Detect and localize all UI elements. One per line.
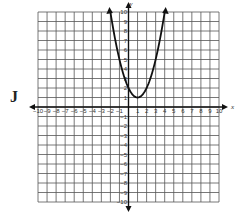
x-tick-label: 1 (136, 108, 140, 114)
arrow-right-icon (222, 104, 228, 110)
x-tick-label: −6 (71, 108, 79, 114)
x-axis-label: x (230, 103, 235, 111)
x-tick-label: −4 (89, 108, 97, 114)
curve-arrow-right-icon (162, 7, 169, 14)
x-tick-label: −9 (44, 108, 52, 114)
x-tick-label: −5 (80, 108, 88, 114)
y-tick-label: 10 (120, 9, 127, 15)
y-tick-label: −4 (120, 142, 128, 148)
x-tick-label: 9 (208, 108, 212, 114)
y-tick-label: −8 (120, 180, 128, 186)
x-tick-label: 4 (163, 108, 167, 114)
x-tick-label: 8 (199, 108, 203, 114)
x-tick-label: −3 (98, 108, 106, 114)
y-axis-label: y (129, 0, 134, 8)
x-tick-label: 7 (190, 108, 194, 114)
x-tick-label: 3 (154, 108, 158, 114)
x-tick-label: −2 (107, 108, 115, 114)
coordinate-grid-chart: xy−10−9−8−7−6−5−4−3−2−112345678910−10−9−… (0, 0, 240, 214)
y-tick-label: −6 (120, 161, 128, 167)
y-tick-label: −9 (120, 190, 128, 196)
y-tick-label: −3 (120, 133, 128, 139)
x-tick-label: 10 (216, 108, 223, 114)
x-tick-label: −10 (33, 108, 44, 114)
x-tick-label: −7 (62, 108, 70, 114)
curve-arrow-left-icon (106, 7, 113, 14)
y-tick-label: −10 (117, 199, 128, 205)
y-tick-label: −1 (120, 114, 128, 120)
x-tick-label: 6 (181, 108, 185, 114)
x-tick-label: 5 (172, 108, 176, 114)
x-tick-label: −8 (53, 108, 61, 114)
arrow-down-icon (126, 206, 132, 212)
y-tick-label: −5 (120, 152, 128, 158)
y-tick-label: −7 (120, 171, 128, 177)
x-tick-label: 2 (145, 108, 149, 114)
y-tick-label: −2 (120, 123, 128, 129)
